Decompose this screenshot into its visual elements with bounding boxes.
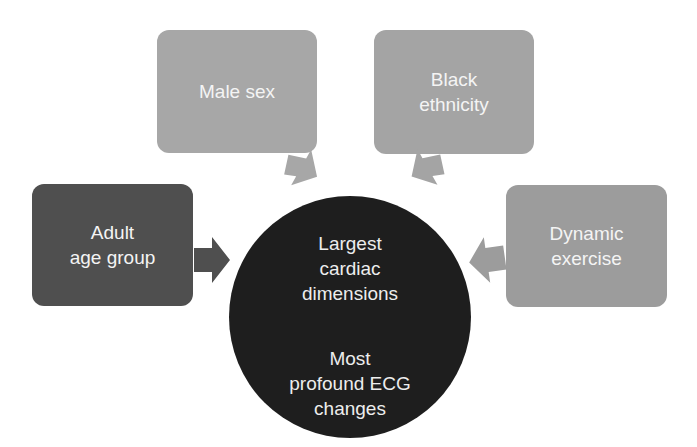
outcome-line: cardiac [229, 256, 471, 281]
outcome-circle: Largest cardiac dimensions Most profound… [229, 196, 471, 438]
outcome-line: Most [229, 346, 471, 371]
factor-label: age group [70, 245, 156, 270]
factor-label: ethnicity [419, 92, 489, 117]
arrow-down-left-icon [406, 155, 452, 195]
factor-label: exercise [550, 246, 624, 271]
factor-label: Adult [70, 220, 156, 245]
factor-box-black-ethnicity: Black ethnicity [374, 30, 534, 154]
outcome-line: dimensions [229, 281, 471, 306]
arrow-right-icon [194, 237, 230, 283]
factor-label: Black [419, 67, 489, 92]
factor-box-adult-age-group: Adult age group [32, 184, 193, 306]
factor-label: Male sex [199, 79, 275, 104]
outcome-line: changes [229, 396, 471, 421]
outcome-line: profound ECG [229, 371, 471, 396]
arrow-down-right-icon [277, 155, 321, 193]
factor-box-male-sex: Male sex [157, 30, 317, 153]
outcome-text-cardiac-dimensions: Largest cardiac dimensions [229, 231, 471, 306]
factor-box-dynamic-exercise: Dynamic exercise [506, 185, 667, 307]
factor-label: Dynamic [550, 221, 624, 246]
outcome-line: Largest [229, 231, 471, 256]
arrow-left-icon [469, 237, 505, 283]
outcome-text-ecg-changes: Most profound ECG changes [229, 346, 471, 421]
